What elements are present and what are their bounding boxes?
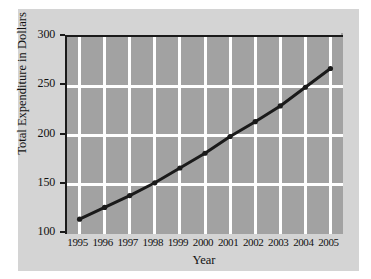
data-point-1998 — [152, 180, 157, 185]
data-point-1999 — [177, 165, 182, 170]
series-line — [80, 69, 331, 220]
data-point-1995 — [77, 217, 82, 222]
y-tick-mark-250 — [60, 83, 65, 85]
data-point-1997 — [127, 193, 132, 198]
plot-area — [65, 35, 343, 234]
y-tick-label-100: 100 — [21, 224, 55, 239]
x-axis-title: Year — [65, 253, 343, 268]
data-point-2005 — [328, 66, 333, 71]
data-point-2002 — [253, 119, 258, 124]
y-tick-mark-200 — [60, 133, 65, 135]
chart-figure: 100150200250300 199519961997199819992000… — [0, 0, 371, 279]
y-axis-title: Total Expenditure in Dollars — [15, 0, 30, 184]
line-series — [67, 37, 343, 234]
data-point-1996 — [102, 205, 107, 210]
y-tick-mark-100 — [60, 231, 65, 233]
data-point-2000 — [202, 151, 207, 156]
data-point-2004 — [303, 85, 308, 90]
x-tick-label-2005: 2005 — [311, 236, 345, 248]
y-tick-mark-300 — [60, 34, 65, 36]
y-tick-mark-150 — [60, 182, 65, 184]
data-point-2001 — [227, 134, 232, 139]
data-point-2003 — [278, 103, 283, 108]
